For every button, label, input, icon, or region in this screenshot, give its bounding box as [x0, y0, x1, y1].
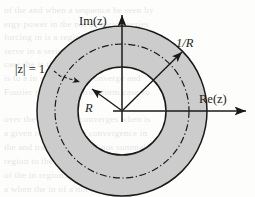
inner-radius-label: R	[84, 101, 93, 115]
real-axis-label: Re(z)	[199, 92, 227, 106]
inner-radius-arrow	[92, 89, 121, 110]
figure-page: of the and when a sequence be seen byerg…	[0, 0, 255, 197]
outer-radius-label: 1/R	[176, 36, 194, 50]
imaginary-axis-label: Im(z)	[79, 14, 107, 28]
unit-circle-label: |z| = 1	[15, 62, 45, 76]
complex-plane-annulus-figure: Im(z) Re(z) 1/R R |z| = 1	[0, 0, 255, 197]
